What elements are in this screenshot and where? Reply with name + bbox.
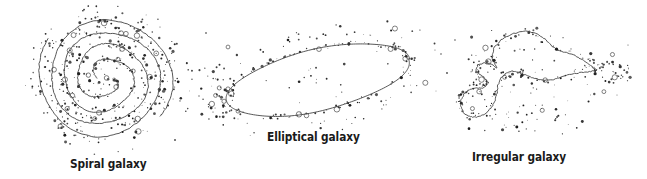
spiral-galaxy-label: Spiral galaxy: [70, 157, 147, 171]
irregular-galaxy-label: Irregular galaxy: [472, 150, 566, 164]
irregular-galaxy-drawing: [456, 27, 632, 135]
elliptical-galaxy-drawing: [200, 20, 435, 136]
spiral-galaxy-drawing: [25, 5, 182, 155]
galaxy-types-figure: Spiral galaxy Elliptical galaxy Irregula…: [0, 0, 647, 179]
elliptical-galaxy-label: Elliptical galaxy: [267, 130, 360, 144]
